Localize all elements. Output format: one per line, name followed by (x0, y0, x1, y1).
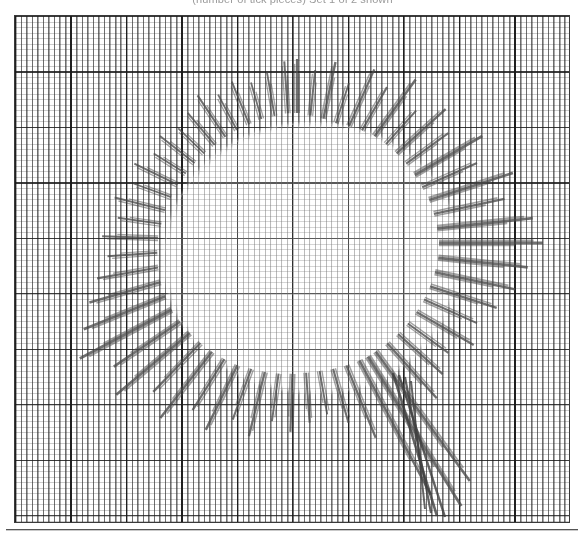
radial-streak (107, 239, 158, 241)
radial-streak (188, 113, 215, 145)
radial-streak (237, 370, 254, 416)
radial-streak (179, 132, 203, 155)
radial-streak (115, 198, 165, 211)
long-streak-group (393, 373, 445, 517)
radial-streak (424, 300, 477, 324)
radial-streak (289, 374, 290, 416)
radial-streak (323, 62, 335, 119)
radial-streak (97, 268, 158, 279)
radial-streak (407, 325, 437, 347)
radial-streaks-layer (15, 16, 570, 523)
radial-streak (437, 218, 533, 228)
radial-streak (117, 235, 158, 237)
radial-streak (155, 157, 184, 175)
radial-streak (435, 272, 515, 289)
radial-streak (321, 67, 332, 119)
long-streak (393, 373, 437, 516)
radial-streak (349, 365, 376, 431)
radial-streak (397, 109, 446, 153)
radial-streak (144, 185, 171, 195)
radial-streak-group (80, 59, 543, 506)
radial-streak (293, 374, 295, 427)
radial-streak (333, 369, 348, 423)
radial-streak (429, 173, 513, 200)
radial-streak (378, 350, 464, 468)
radial-streak (233, 369, 252, 420)
radial-streak (375, 80, 416, 137)
radial-streak (206, 365, 238, 430)
radial-streak (434, 199, 505, 214)
radial-streak (114, 322, 180, 367)
radial-streak (336, 83, 349, 123)
radial-streak (232, 82, 249, 125)
radial-streak (434, 205, 485, 216)
radial-streak (290, 374, 292, 432)
radial-streak (137, 168, 176, 187)
radial-streak (102, 236, 158, 238)
radial-streak (331, 370, 342, 409)
radial-streak (154, 153, 186, 173)
radial-streak (218, 95, 237, 130)
radial-streak (431, 284, 492, 304)
radial-streak (415, 136, 483, 175)
radial-streak (153, 343, 200, 392)
radial-streak (395, 111, 440, 151)
radial-streak (249, 372, 265, 436)
radial-streak (92, 298, 166, 328)
radial-streak (398, 334, 443, 374)
radial-streak (119, 201, 165, 212)
radial-streak (423, 172, 463, 190)
radial-streak (430, 182, 491, 202)
radial-streak (134, 184, 172, 198)
bottom-rule (6, 529, 578, 531)
radial-streak (251, 83, 261, 120)
figure-caption: (number of tick pieces) Set 1 of 2 shown (0, 0, 585, 5)
graph-paper-plot (14, 15, 570, 523)
